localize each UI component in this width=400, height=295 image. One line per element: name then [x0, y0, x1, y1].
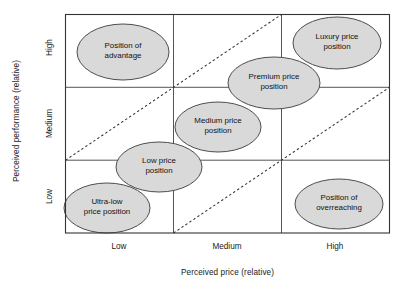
x-tick-low: Low: [79, 241, 159, 252]
y-tick-low: Low: [44, 177, 55, 217]
bubble-position-of-advantage[interactable]: [77, 24, 169, 80]
bubble-medium-price-position[interactable]: [175, 102, 261, 152]
x-tick-medium: Medium: [187, 241, 267, 252]
value-map-figure: Position of advantage Luxury price posit…: [0, 0, 400, 295]
x-axis-title: Perceived price (relative): [65, 268, 390, 277]
y-axis-title: Perceived performance (relative): [12, 6, 24, 236]
bubble-low-price-position[interactable]: [116, 142, 202, 192]
bubble-position-of-overreaching[interactable]: [295, 179, 383, 229]
y-tick-high: High: [44, 28, 55, 68]
y-tick-medium: Medium: [44, 104, 55, 144]
bubble-premium-price-position[interactable]: [228, 57, 320, 109]
bubble-luxury-price-position[interactable]: [293, 17, 381, 69]
bubble-ultra-low-price-position[interactable]: [64, 183, 150, 233]
x-tick-high: High: [295, 241, 375, 252]
